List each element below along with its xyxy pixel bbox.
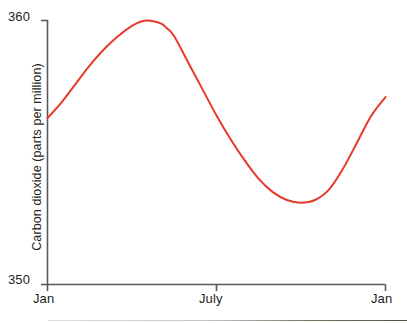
co2-chart-figure: 360 350 Jan July Jan Carbon dioxide (par… [0,0,407,323]
x-axis-tick-label-july: July [199,291,223,306]
page-edge-artifact [48,320,407,321]
co2-line-series [48,20,386,202]
x-axis-tick-label-jan-start: Jan [33,291,54,306]
chart-plot-area [0,0,407,323]
x-axis-tick-label-jan-end: Jan [371,291,392,306]
y-axis-tick-label-top: 360 [8,9,30,24]
y-axis-title: Carbon dioxide (parts per million) [30,37,44,277]
y-axis-tick-label-bottom: 350 [8,272,30,287]
